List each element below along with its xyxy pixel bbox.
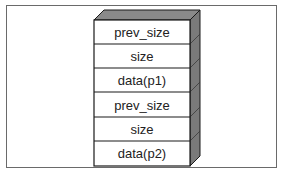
stack-top-face [94, 10, 200, 20]
stack-row-data-p1: data(p1) [94, 68, 190, 92]
stack-row-prev-size-1: prev_size [94, 20, 190, 44]
stack-row-data-p2: data(p2) [94, 141, 190, 165]
stack-row-size-1: size [94, 44, 190, 68]
stack-row-size-2: size [94, 117, 190, 141]
stack-row-prev-size-2: prev_size [94, 93, 190, 117]
stack-side-face [190, 10, 200, 166]
